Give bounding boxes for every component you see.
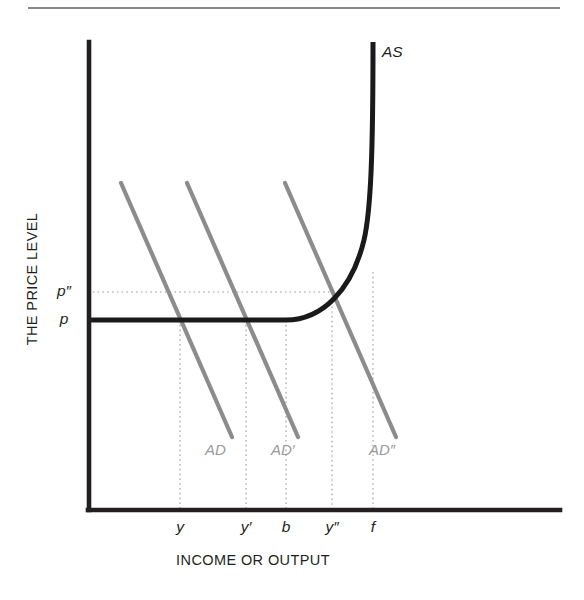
ad-curves xyxy=(121,183,396,437)
y-tick-p: p xyxy=(46,310,82,328)
ad-prime-curve xyxy=(187,183,298,437)
x-tick-y-double-prime: y″ xyxy=(314,518,350,536)
as-curve-label: AS xyxy=(382,43,403,61)
x-axis-title: INCOME OR OUTPUT xyxy=(88,552,418,568)
ad-double-prime-curve-label: AD″ xyxy=(369,441,395,458)
x-tick-y-prime: y′ xyxy=(228,518,264,536)
x-tick-f: f xyxy=(355,518,391,536)
ad-curve xyxy=(121,183,232,437)
guide-lines xyxy=(88,272,373,510)
ad-prime-curve-label: AD′ xyxy=(271,441,295,458)
y-tick-p-double-prime: p″ xyxy=(46,282,82,300)
figure-canvas: THE PRICE LEVEL INCOME OR OUTPUT p″ p y … xyxy=(0,0,584,600)
x-tick-y: y xyxy=(162,518,198,536)
y-axis-title: THE PRICE LEVEL xyxy=(24,184,40,374)
chart-svg xyxy=(0,0,584,600)
ad-double-prime-curve xyxy=(285,183,396,437)
x-tick-b: b xyxy=(268,518,304,536)
ad-curve-label: AD xyxy=(205,441,226,458)
